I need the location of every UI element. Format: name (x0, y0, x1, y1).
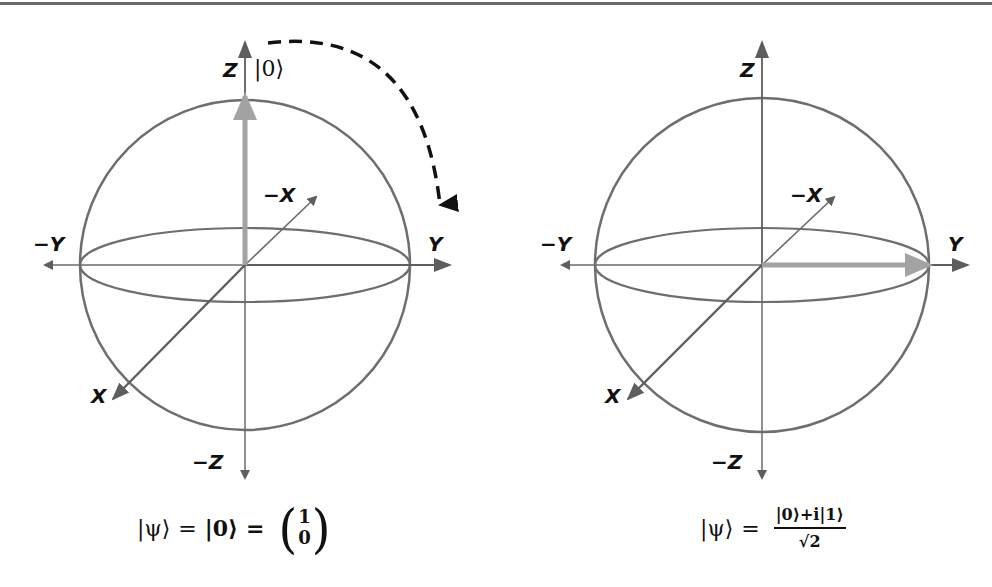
right-paren: ) (312, 502, 331, 555)
left-z-label: Z (223, 60, 238, 80)
left-ket-zero-label: |0⟩ (254, 58, 284, 80)
right-y-label: Y (948, 234, 962, 254)
equals-sign: = (741, 516, 759, 541)
right-neg-x-label: −X (790, 185, 822, 205)
right-z-label: Z (740, 60, 755, 80)
psi-ket: |ψ⟩ (700, 516, 733, 541)
right-neg-z-label: −Z (711, 452, 742, 472)
x-axis (628, 265, 762, 399)
x-axis (113, 265, 245, 399)
left-x-label: X (91, 386, 106, 406)
left-neg-z-label: −Z (192, 452, 223, 472)
zero-ket: |0⟩ (205, 515, 238, 541)
right-neg-y-label: −Y (540, 234, 571, 254)
equals-sign: = (246, 515, 264, 541)
vector-bottom: 0 (298, 528, 311, 549)
fraction: |0⟩+i|1⟩ √2 (774, 505, 846, 551)
fraction-numerator: |0⟩+i|1⟩ (774, 505, 846, 529)
left-state-equation: |ψ⟩ = |0⟩ = ( 1 0 ) (137, 498, 331, 558)
column-vector: ( 1 0 ) (279, 504, 331, 552)
fraction-denominator: √2 (799, 529, 821, 551)
left-neg-x-label: −X (263, 185, 295, 205)
left-bloch-sphere (45, 41, 450, 478)
left-paren: ( (279, 502, 298, 555)
left-neg-y-label: −Y (33, 234, 64, 254)
rotation-arc-arrow (268, 41, 440, 205)
psi-ket: |ψ⟩ (137, 516, 170, 541)
left-y-label: Y (428, 234, 442, 254)
right-state-equation: |ψ⟩ = |0⟩+i|1⟩ √2 (700, 498, 846, 558)
vector-top: 1 (298, 507, 311, 528)
right-x-label: X (605, 386, 620, 406)
equals-sign: = (178, 516, 196, 541)
right-bloch-sphere (562, 42, 968, 478)
